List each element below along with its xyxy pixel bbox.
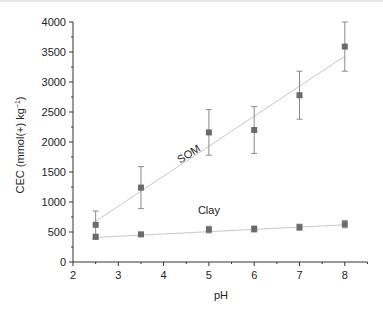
y-tick-label: 500 (48, 226, 66, 238)
data-marker (297, 92, 303, 98)
y-tick-label: 0 (60, 256, 66, 268)
data-marker (93, 222, 99, 228)
y-tick-label: 1500 (42, 166, 66, 178)
data-marker (138, 185, 144, 191)
series-label: SOM (175, 142, 203, 166)
series-label: Clay (198, 204, 221, 216)
x-tick-label: 7 (296, 269, 302, 281)
y-tick-label: 4000 (42, 16, 66, 28)
series-som: SOM (93, 22, 348, 239)
data-marker (251, 226, 257, 232)
data-marker (342, 221, 348, 227)
data-marker (206, 227, 212, 233)
data-marker (297, 224, 303, 230)
x-tick-label: 6 (251, 269, 257, 281)
axes: 050010001500200025003000350040002345678 (42, 16, 368, 281)
y-tick-label: 2000 (42, 136, 66, 148)
y-axis-label: CEC (mmol(+) kg−1) (14, 97, 26, 194)
cec-vs-ph-chart: 050010001500200025003000350040002345678 … (0, 0, 383, 314)
y-tick-label: 3000 (42, 76, 66, 88)
x-tick-label: 5 (206, 269, 212, 281)
data-marker (251, 127, 257, 133)
x-tick-label: 4 (161, 269, 167, 281)
fit-line (96, 225, 345, 238)
x-tick-label: 8 (342, 269, 348, 281)
y-tick-label: 2500 (42, 106, 66, 118)
data-marker (93, 234, 99, 240)
x-tick-label: 3 (115, 269, 121, 281)
y-tick-label: 1000 (42, 196, 66, 208)
x-tick-label: 2 (70, 269, 76, 281)
fit-line (96, 56, 345, 221)
y-tick-label: 3500 (42, 46, 66, 58)
data-marker (138, 231, 144, 237)
x-axis-label: pH (214, 289, 228, 301)
data-marker (342, 44, 348, 50)
data-marker (206, 129, 212, 135)
data-series: SOMClay (93, 22, 348, 240)
series-clay: Clay (93, 204, 348, 240)
